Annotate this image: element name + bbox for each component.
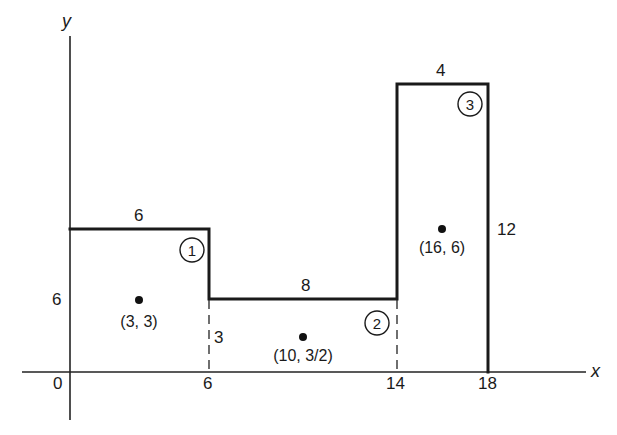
region-badge-1-label: 1	[188, 242, 196, 259]
dim-width-region2: 8	[301, 276, 310, 295]
dim-height-region1: 6	[52, 290, 61, 309]
dim-step-height: 3	[214, 328, 223, 347]
region-badge-1: 1	[180, 238, 204, 262]
x-tick-14: 14	[386, 374, 405, 393]
region-badge-2: 2	[365, 311, 389, 335]
centroid-dot-region2	[299, 333, 307, 341]
centroid-label-region2: (10, 3/2)	[273, 347, 333, 364]
x-tick-18: 18	[478, 374, 497, 393]
region-badge-3: 3	[458, 92, 482, 116]
origin-label: 0	[53, 374, 62, 393]
x-axis-label: x	[590, 361, 601, 381]
x-tick-6: 6	[203, 374, 212, 393]
centroid-label-region1: (3, 3)	[120, 313, 157, 330]
region-badge-2-label: 2	[373, 315, 381, 332]
centroid-dot-region3	[438, 225, 446, 233]
centroid-label-region3: (16, 6)	[419, 239, 465, 256]
dim-height-region3: 12	[497, 220, 516, 239]
composite-area-diagram: y x 0 6 14 18 6 6 3 8 4 12 1 2 3 (3, 3) …	[0, 0, 617, 435]
dim-width-region1: 6	[134, 206, 143, 225]
centroid-dot-region1	[135, 296, 143, 304]
dim-width-region3: 4	[436, 61, 445, 80]
y-axis-label: y	[60, 11, 72, 31]
region-badge-3-label: 3	[466, 96, 474, 113]
